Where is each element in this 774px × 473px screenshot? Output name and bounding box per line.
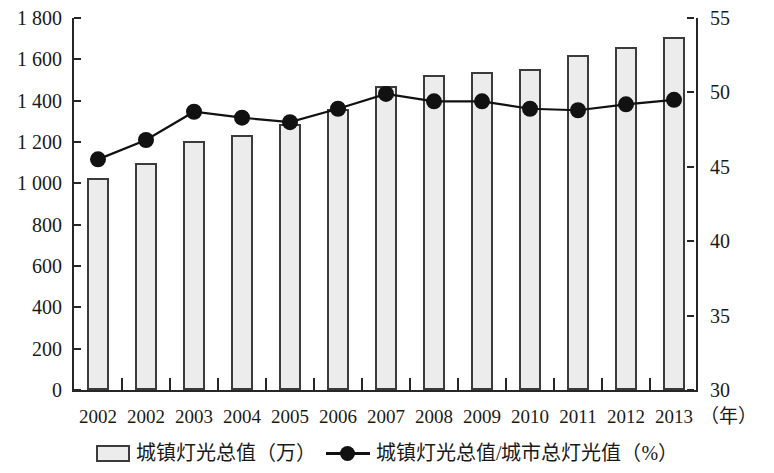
right-axis-tick-label: 45 [710,157,730,177]
left-axis-tick-label: 1 800 [17,8,62,28]
x-axis-tick-label: 2006 [313,407,363,426]
left-axis-tick-label: 1 000 [17,173,62,193]
line-marker [330,101,346,117]
line-marker [474,93,490,109]
right-axis-tick-label: 35 [710,306,730,326]
line-series-layer [72,18,698,392]
x-axis-tick-label: 2008 [409,407,459,426]
line-marker [282,114,298,130]
line-path [98,94,674,159]
line-marker [426,93,442,109]
x-axis-tick-label: 2012 [601,407,651,426]
x-axis-tick-label: 2005 [265,407,315,426]
line-marker [570,102,586,118]
legend-entry-line[interactable]: 城镇灯光总值/城市总灯光值（%） [326,443,678,463]
left-axis-tick-label: 800 [32,215,62,235]
x-axis-tick-label: 2013 [649,407,699,426]
right-axis-tick-label: 50 [710,82,730,102]
line-marker [618,96,634,112]
legend-label-bar: 城镇灯光总值（万） [136,443,316,463]
x-axis-tick-label: 2010 [505,407,555,426]
line-marker [234,110,250,126]
x-axis-tick-label: 2007 [361,407,411,426]
line-marker [186,104,202,120]
left-axis-tick-label: 0 [52,380,62,400]
left-axis-tick-label: 1 600 [17,49,62,69]
x-axis-tick-label: 2009 [457,407,507,426]
x-axis-tick-label: 2003 [169,407,219,426]
left-axis-tick-label: 1 200 [17,132,62,152]
left-axis-tick-label: 400 [32,297,62,317]
x-axis-tick-label: 2004 [217,407,267,426]
line-marker [90,151,106,167]
legend-label-line: 城镇灯光总值/城市总灯光值（%） [376,443,678,463]
chart-figure: 02004006008001 0001 2001 4001 6001 800 3… [0,0,774,473]
x-axis-tick-label: 2002 [73,407,123,426]
bar-swatch-icon [96,445,130,462]
line-marker [666,92,682,108]
right-axis-tick-label: 40 [710,231,730,251]
line-marker [522,101,538,117]
left-axis-tick-label: 1 400 [17,91,62,111]
right-axis-tick-label: 55 [710,8,730,28]
line-marker [138,132,154,148]
plot-area [72,18,698,392]
x-axis-tick-label: 2002 [121,407,171,426]
line-marker-swatch-icon [326,445,370,462]
left-axis-tick-label: 200 [32,339,62,359]
legend-entry-bar[interactable]: 城镇灯光总值（万） [96,443,316,463]
right-axis-tick-label: 30 [710,380,730,400]
x-axis-tick-label: 2011 [553,407,603,426]
left-axis-tick-label: 600 [32,256,62,276]
chart-legend: 城镇灯光总值（万） 城镇灯光总值/城市总灯光值（%） [0,433,774,473]
line-marker [378,86,394,102]
x-axis-unit-label: （年） [700,407,757,426]
